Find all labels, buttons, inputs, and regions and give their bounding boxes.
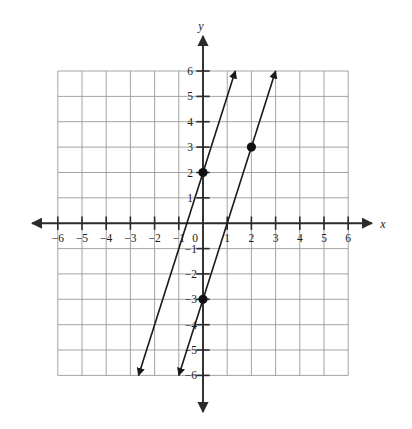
x-tick-label: −4: [100, 232, 112, 244]
x-axis-name-label: x: [379, 217, 386, 231]
x-tick-label: 4: [297, 232, 303, 244]
y-tick-label: −6: [185, 369, 197, 381]
y-axis-name-label: y: [197, 19, 204, 33]
y-tick-label: −2: [185, 268, 197, 280]
x-tick-label: 2: [249, 232, 255, 244]
x-tick-label: −5: [76, 232, 88, 244]
graph-canvas: −6 −5 −4 −3 −2 −1 0 1 2 3 4 5 6 6 5 4 3 …: [0, 0, 412, 429]
y-tick-label: 2: [187, 167, 193, 179]
y-tick-label: 4: [187, 116, 193, 128]
x-tick-label: −2: [148, 232, 160, 244]
data-point-0-n3: [198, 295, 207, 304]
y-tick-label: −1: [185, 243, 197, 255]
data-point-0-2: [198, 168, 207, 177]
data-point-2-3: [247, 143, 256, 152]
y-tick-label: 3: [187, 141, 193, 153]
x-tick-label: 1: [224, 232, 230, 244]
axes-group: [32, 36, 372, 412]
x-axis-tick-labels: −6 −5 −4 −3 −2 −1 0 1 2 3 4 5 6: [52, 232, 352, 244]
x-tick-label: −6: [52, 232, 64, 244]
y-tick-label: 1: [187, 192, 193, 204]
coordinate-plane-figure: −6 −5 −4 −3 −2 −1 0 1 2 3 4 5 6 6 5 4 3 …: [0, 0, 412, 429]
x-tick-label: 5: [321, 232, 327, 244]
y-tick-label: 5: [187, 90, 193, 102]
y-tick-label: 6: [187, 65, 193, 77]
x-tick-label: 3: [273, 232, 279, 244]
y-tick-label: −3: [185, 293, 197, 305]
x-tick-label: 6: [345, 232, 351, 244]
x-tick-label: −3: [124, 232, 136, 244]
